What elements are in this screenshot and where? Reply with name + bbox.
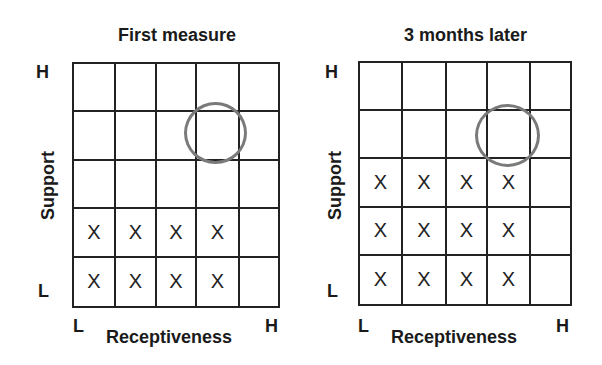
grid-cell-marked: X [197, 258, 240, 306]
grid-cell-marked: X [74, 209, 116, 257]
grid-cell [116, 64, 157, 112]
x-axis-high-label: H [556, 316, 569, 337]
grid-cell [240, 64, 278, 112]
target-circle [184, 102, 247, 164]
grid-cell-marked: X [74, 258, 116, 306]
support-receptiveness-grid: XXXXXXXXXXXX [358, 61, 572, 306]
x-axis-label: Receptiveness [106, 327, 232, 348]
grid-cell [447, 63, 488, 111]
grid-cell [360, 111, 403, 159]
grid-cell [240, 209, 278, 257]
target-circle [475, 104, 540, 167]
grid-cell [74, 64, 116, 112]
grid-cell [403, 63, 447, 111]
grid-cell-marked: X [403, 208, 447, 256]
grid-cell [531, 63, 570, 111]
y-axis-low-label: L [327, 281, 338, 302]
grid-cell-marked: X [116, 258, 157, 306]
grid-cell-marked: X [360, 256, 403, 304]
grid-cell-marked: X [447, 159, 488, 207]
grid-cell-marked: X [447, 256, 488, 304]
x-axis-label: Receptiveness [391, 327, 517, 348]
x-axis-high-label: H [265, 316, 278, 337]
grid-cell-marked: X [360, 208, 403, 256]
panel-title: 3 months later [404, 25, 527, 46]
grid-cell-marked: X [447, 208, 488, 256]
grid-cell [74, 161, 116, 209]
grid-cell-marked: X [488, 208, 531, 256]
grid-cell [116, 161, 157, 209]
grid-cell [531, 208, 570, 256]
grid-cell [197, 161, 240, 209]
grid-cell-marked: X [197, 209, 240, 257]
grid-cell [531, 159, 570, 207]
y-axis-label: Support [325, 146, 346, 226]
grid-cell [531, 256, 570, 304]
grid-cell-marked: X [157, 258, 197, 306]
grid-cell-marked: X [403, 159, 447, 207]
grid-cell-marked: X [488, 256, 531, 304]
x-axis-low-label: L [73, 316, 84, 337]
grid-cell [157, 64, 197, 112]
grid-cell [74, 112, 116, 160]
y-axis-high-label: H [325, 62, 338, 83]
grid-cell-marked: X [360, 159, 403, 207]
y-axis-label: Support [38, 146, 59, 226]
grid-cell [360, 63, 403, 111]
grid-cell [157, 161, 197, 209]
grid-cell [240, 161, 278, 209]
grid-cell [240, 258, 278, 306]
grid-cell [403, 111, 447, 159]
grid-cell-marked: X [116, 209, 157, 257]
grid-cell-marked: X [157, 209, 197, 257]
panel-title: First measure [118, 25, 236, 46]
y-axis-low-label: L [38, 281, 49, 302]
grid-cell-marked: X [403, 256, 447, 304]
support-receptiveness-grid: XXXXXXXX [72, 62, 280, 308]
y-axis-high-label: H [36, 62, 49, 83]
grid-cell [116, 112, 157, 160]
x-axis-low-label: L [358, 316, 369, 337]
